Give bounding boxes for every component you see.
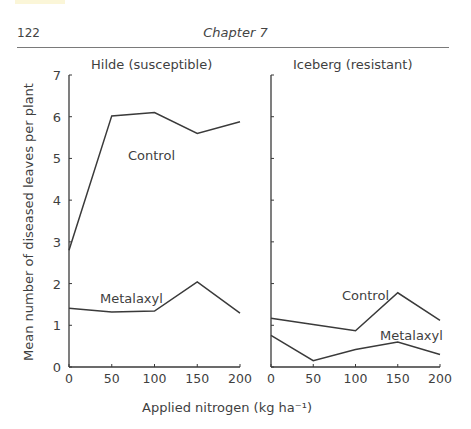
series-label-metalaxyl: Metalaxyl (100, 291, 163, 306)
x-tick-label: 150 (185, 371, 209, 386)
x-tick-label: 200 (428, 371, 452, 386)
y-tick-label: 4 (53, 193, 61, 208)
series-label-control: Control (342, 288, 389, 303)
y-tick-label: 3 (53, 235, 61, 250)
x-axis-label: Applied nitrogen (kg ha⁻¹) (142, 400, 312, 415)
y-axis-label: Mean number of diseased leaves per plant (21, 83, 36, 361)
y-tick-label: 0 (53, 360, 61, 375)
line-chart: 01234567050100150200Hilde (susceptible)C… (0, 0, 471, 429)
y-tick-label: 7 (53, 68, 61, 83)
series-label-control: Control (128, 148, 175, 163)
panel-title: Hilde (susceptible) (91, 57, 212, 72)
panel-title: Iceberg (resistant) (293, 57, 413, 72)
x-tick-label: 150 (386, 371, 410, 386)
y-tick-label: 6 (53, 110, 61, 125)
x-tick-label: 0 (65, 371, 73, 386)
y-tick-label: 2 (53, 277, 61, 292)
x-tick-label: 50 (104, 371, 120, 386)
y-tick-label: 1 (53, 318, 61, 333)
series-label-metalaxyl: Metalaxyl (380, 328, 443, 343)
x-tick-label: 0 (267, 371, 275, 386)
x-tick-label: 100 (143, 371, 167, 386)
x-tick-label: 200 (228, 371, 252, 386)
series-line-control (69, 113, 240, 251)
y-tick-label: 5 (53, 151, 61, 166)
x-tick-label: 50 (305, 371, 321, 386)
x-tick-label: 100 (344, 371, 368, 386)
